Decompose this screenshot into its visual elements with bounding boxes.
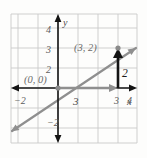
y-axis-label: y [63,18,67,28]
x-tick-minus2: −2 [14,96,26,106]
x-tick-3: 3 [114,96,119,106]
y-tick-3: 3 [46,45,51,55]
point-3-2-label: (3, 2) [74,43,97,54]
run-arrowhead [109,84,118,92]
point-3-2 [115,45,120,50]
coordinate-plane-figure: y x 4 3 2 −2 −2 3 4 (0, 0) (3, 2) 3 2 [0,0,147,158]
origin-point-label: (0, 0) [24,75,47,86]
y-tick-minus2: −2 [47,118,59,128]
x-tick-4: 4 [127,96,132,106]
rise-length-label: 2 [122,68,128,80]
y-tick-4: 4 [46,25,51,35]
run-length-label: 3 [73,96,79,107]
point-origin [55,85,60,90]
